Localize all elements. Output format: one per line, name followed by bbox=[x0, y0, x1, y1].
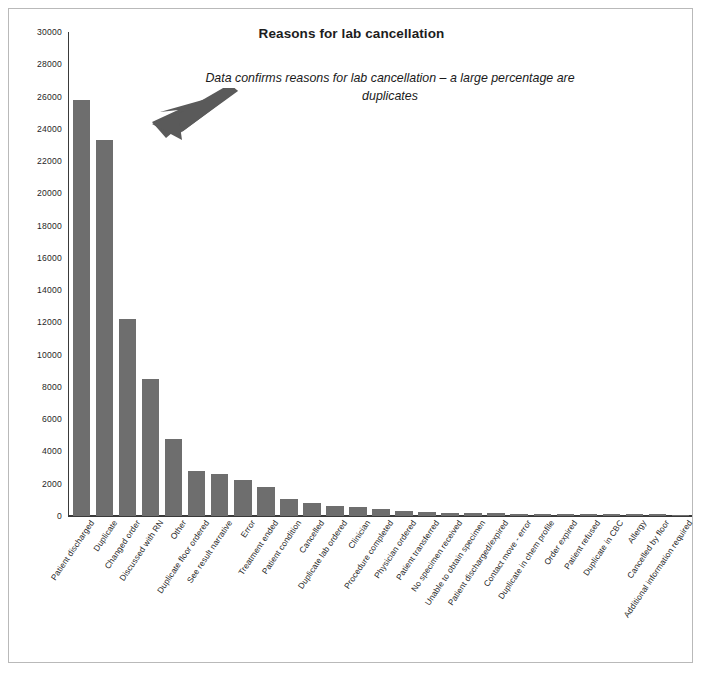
y-axis-line bbox=[68, 32, 69, 516]
bar bbox=[418, 512, 436, 516]
x-axis-category-label: Allergy bbox=[626, 518, 649, 545]
bar bbox=[280, 499, 298, 516]
bar bbox=[326, 506, 344, 516]
y-axis-tick-label: 20000 bbox=[0, 188, 62, 198]
bar bbox=[510, 514, 528, 516]
bar bbox=[257, 487, 275, 516]
bar bbox=[211, 474, 229, 516]
y-axis-tick-label: 26000 bbox=[0, 92, 62, 102]
bar bbox=[234, 480, 252, 516]
bar bbox=[464, 513, 482, 516]
y-axis-tick-label: 4000 bbox=[0, 446, 62, 456]
y-axis-tick-label: 14000 bbox=[0, 285, 62, 295]
y-axis-tick-label: 0 bbox=[0, 511, 62, 521]
bar bbox=[303, 503, 321, 516]
y-axis-tick-label: 12000 bbox=[0, 317, 62, 327]
bar bbox=[188, 471, 206, 516]
bar bbox=[142, 379, 160, 516]
y-axis-tick-label: 10000 bbox=[0, 350, 62, 360]
bar bbox=[372, 509, 390, 516]
bar bbox=[119, 319, 137, 516]
y-axis-tick-label: 30000 bbox=[0, 27, 62, 37]
bar bbox=[603, 514, 621, 516]
y-axis-tick-label: 6000 bbox=[0, 414, 62, 424]
bar bbox=[626, 514, 644, 516]
bar-series bbox=[70, 32, 692, 516]
bar bbox=[649, 514, 667, 516]
y-axis-tick-label: 22000 bbox=[0, 156, 62, 166]
y-axis-tick-label: 8000 bbox=[0, 382, 62, 392]
y-axis-tick-label: 18000 bbox=[0, 221, 62, 231]
bar bbox=[96, 140, 114, 516]
x-axis-category-labels: Patient dischargedDuplicateChanged order… bbox=[70, 518, 692, 668]
bar bbox=[165, 439, 183, 516]
y-axis-tick-label: 24000 bbox=[0, 124, 62, 134]
y-axis-tick-label: 16000 bbox=[0, 253, 62, 263]
bar bbox=[534, 514, 552, 516]
y-axis-tick-label: 2000 bbox=[0, 479, 62, 489]
bar bbox=[441, 513, 459, 516]
bar bbox=[580, 514, 598, 516]
bar bbox=[557, 514, 575, 516]
slide-page: Reasons for lab cancellation Data confir… bbox=[0, 0, 703, 673]
bar bbox=[73, 100, 91, 516]
bar bbox=[672, 515, 690, 517]
bar bbox=[349, 507, 367, 516]
x-axis-category-label: Other bbox=[168, 518, 188, 541]
x-axis-category-label: Error bbox=[238, 518, 257, 539]
y-axis-tick-label: 28000 bbox=[0, 59, 62, 69]
bar bbox=[487, 513, 505, 516]
bar bbox=[395, 511, 413, 516]
